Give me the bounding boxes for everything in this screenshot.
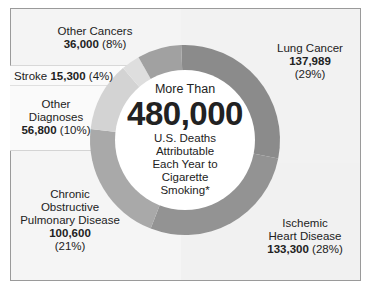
- label-pct: (28%): [312, 243, 343, 255]
- label-name: Lung Cancer: [260, 42, 360, 55]
- label-name: Obstructive: [14, 201, 126, 214]
- label-value: 56,800: [21, 124, 56, 136]
- label-name: Stroke: [14, 70, 47, 82]
- label-value: 100,600: [49, 227, 91, 239]
- label-copd: Chronic Obstructive Pulmonary Disease 10…: [14, 188, 126, 253]
- label-name: Pulmonary Disease: [14, 214, 126, 227]
- label-value: 15,300: [50, 70, 85, 82]
- label-value: 133,300: [267, 243, 309, 255]
- center-post-line: Cigarette: [113, 171, 257, 184]
- label-name: Heart Disease: [250, 230, 360, 243]
- label-pct: (8%): [102, 38, 126, 50]
- label-value-line: 133,300 (28%): [250, 243, 360, 256]
- label-value-line: 36,000 (8%): [40, 38, 150, 51]
- label-value: 137,989: [289, 55, 331, 67]
- center-total-value: 480,000: [113, 96, 257, 132]
- label-other-diagnoses: Other Diagnoses 56,800 (10%): [8, 98, 104, 137]
- label-pct: (4%): [89, 70, 113, 82]
- label-pct: (10%): [60, 124, 91, 136]
- label-value-line: 56,800 (10%): [8, 124, 104, 137]
- label-name: Ischemic: [250, 217, 360, 230]
- center-post-line: Attributable: [113, 145, 257, 158]
- center-post-line: U.S. Deaths: [113, 132, 257, 145]
- center-pre-text: More Than: [113, 82, 257, 96]
- label-value: 36,000: [64, 38, 99, 50]
- label-pct: (29%): [260, 68, 360, 81]
- label-name: Other Cancers: [40, 25, 150, 38]
- label-lung-cancer: Lung Cancer 137,989 (29%): [260, 42, 360, 81]
- label-name: Chronic: [14, 188, 126, 201]
- label-name: Diagnoses: [8, 111, 104, 124]
- label-other-cancers: Other Cancers 36,000 (8%): [40, 25, 150, 51]
- center-post-line: Each Year to: [113, 158, 257, 171]
- center-summary: More Than 480,000 U.S. Deaths Attributab…: [113, 70, 257, 197]
- label-value-line: 100,600: [14, 227, 126, 240]
- label-ischemic: Ischemic Heart Disease 133,300 (28%): [250, 217, 360, 256]
- label-name: Other: [8, 98, 104, 111]
- label-stroke: Stroke 15,300 (4%): [14, 70, 124, 83]
- label-pct: (21%): [14, 240, 126, 253]
- center-post-line: Smoking*: [113, 184, 257, 197]
